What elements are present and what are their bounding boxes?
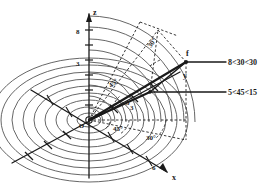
z-tick-label-3: 3	[76, 60, 80, 68]
angle-30-azimuth-label: 30°	[146, 134, 156, 142]
radial-magnitude-label: 5	[126, 99, 130, 107]
point-marker-mid	[148, 90, 152, 94]
z-tick-label-8: 8	[76, 28, 80, 36]
callout-vector-lower: 5<45<15	[228, 88, 257, 97]
y-tick-label-3: 3	[130, 104, 134, 112]
point-marker-f	[184, 60, 188, 64]
point-f-label: f	[186, 49, 189, 58]
angle-45-azimuth-label: 45°	[113, 125, 123, 133]
x-axis-label: x	[172, 173, 176, 182]
x-tick-label-6: 6	[152, 164, 156, 172]
z-axis-label: z	[93, 8, 97, 17]
callout-vector-upper: 8<30<30	[228, 58, 257, 67]
coordinate-diagram-svg: z x y 8 3 6 3 O f 30° 45° 45° 30° 5 8<30…	[0, 0, 274, 195]
origin-label: O	[79, 122, 84, 129]
y-axis-label: y	[183, 71, 187, 80]
diagram-canvas: z x y 8 3 6 3 O f 30° 45° 45° 30° 5 8<30…	[0, 0, 274, 195]
